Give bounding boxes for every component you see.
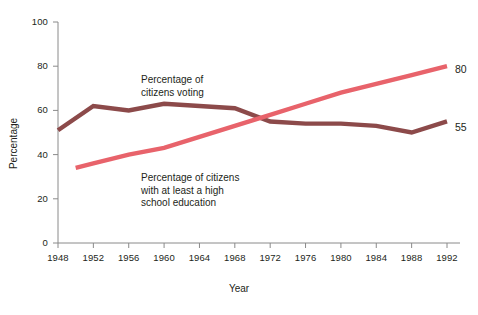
annotation-voting-series: Percentage of citizens voting	[141, 74, 204, 99]
x-axis-tick-label: 1976	[286, 252, 326, 263]
y-axis-tick-label: 100	[10, 16, 48, 27]
series-line-education	[76, 66, 447, 168]
end-value-label-voting: 55	[455, 121, 467, 133]
x-axis-title: Year	[0, 283, 478, 294]
x-axis-tick-label: 1952	[73, 252, 113, 263]
x-axis-tick-label: 1980	[321, 252, 361, 263]
x-axis-tick-label: 1956	[109, 252, 149, 263]
x-axis-tick-label: 1964	[179, 252, 219, 263]
x-axis-tick-label: 1972	[250, 252, 290, 263]
y-axis-title: Percentage	[8, 104, 19, 184]
chart-series-lines	[58, 66, 447, 168]
x-axis-tick-label: 1988	[392, 252, 432, 263]
chart-plot-area	[0, 0, 478, 315]
x-axis-ticks	[58, 243, 447, 248]
y-axis-ticks	[53, 22, 58, 243]
end-value-label-education: 80	[455, 63, 467, 75]
x-axis-tick-label: 1992	[427, 252, 467, 263]
annotation-education-series: Percentage of citizens with at least a h…	[141, 172, 239, 210]
y-axis-tick-label: 80	[10, 60, 48, 71]
x-axis-tick-label: 1984	[356, 252, 396, 263]
line-chart: 020406080100 194819521956196019641968197…	[0, 0, 478, 315]
x-axis-tick-label: 1968	[215, 252, 255, 263]
y-axis-tick-label: 0	[10, 237, 48, 248]
x-axis-tick-label: 1960	[144, 252, 184, 263]
y-axis-tick-label: 20	[10, 193, 48, 204]
x-axis-tick-label: 1948	[38, 252, 78, 263]
